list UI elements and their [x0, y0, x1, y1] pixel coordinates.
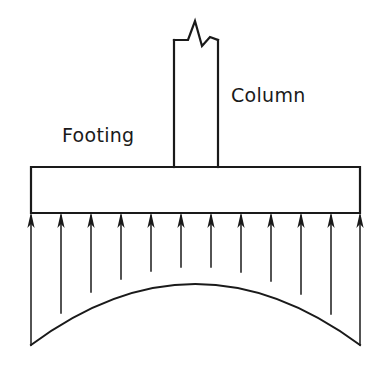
footing-pressure-diagram [0, 0, 379, 366]
pressure-arrow-shafts [31, 216, 360, 345]
column-label: Column [231, 86, 306, 105]
column-break-symbol [174, 21, 218, 46]
figure-canvas: Footing Column [0, 0, 379, 366]
pressure-distribution-curve [31, 284, 360, 345]
footing-label: Footing [62, 126, 134, 145]
pressure-arrow-heads [27, 212, 363, 228]
footing-outline [31, 167, 360, 213]
